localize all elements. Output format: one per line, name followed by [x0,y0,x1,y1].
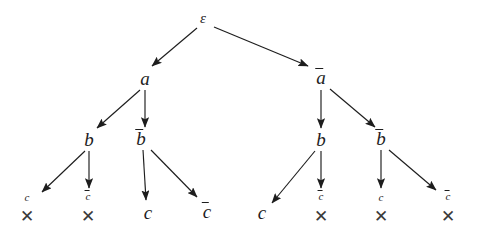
tree-node-b4: b [376,128,386,148]
tree-node-c7: c [379,192,384,203]
tree-node-a: a [140,69,150,88]
tree-edge [151,150,197,197]
tree-edge [42,151,85,192]
tree-node-abar: a [316,67,326,87]
tree-node-root: ε [200,11,206,26]
tree-node-label: c [144,202,152,223]
dead-branch-cross-c7: ✕ [374,208,388,225]
tree-node-label: c [86,190,91,202]
tree-edge [272,151,315,203]
tree-node-b3: b [316,130,326,149]
edges-group [42,27,436,203]
edge-layer [0,0,477,233]
dead-branch-cross-c1: ✕ [20,208,34,225]
tree-node-c3: c [144,203,152,222]
tree-edge [143,150,146,200]
tree-node-label: b [376,128,386,148]
tree-node-label: a [140,68,150,89]
tree-edge [97,90,140,128]
tree-node-label: c [319,190,324,202]
tree-edge [152,28,197,66]
tree-node-b2: b [136,128,146,148]
tree-node-label: ε [200,10,206,26]
tree-node-c8: c [446,190,451,202]
tree-node-c1: c [25,192,30,203]
tree-node-label: c [446,190,451,202]
dead-branch-cross-c6: ✕ [314,208,328,225]
tree-node-label: c [25,191,30,203]
tree-diagram: εaabbbbc✕c✕cccc✕c✕c✕ [0,0,477,233]
tree-node-c2: c [86,190,91,202]
tree-node-label: b [316,129,326,150]
tree-edge [330,89,375,127]
tree-node-label: c [258,202,266,223]
tree-node-b1: b [84,130,94,149]
tree-node-c6: c [319,190,324,202]
tree-node-label: c [203,201,211,221]
tree-node-label: b [84,129,94,150]
dead-branch-cross-c2: ✕ [81,208,95,225]
tree-node-label: c [379,191,384,203]
tree-node-c4: c [203,201,211,221]
tree-edge [214,27,308,66]
tree-edge [389,150,436,190]
dead-branch-cross-c8: ✕ [441,208,455,225]
tree-node-c5: c [258,203,266,222]
tree-node-label: a [316,67,326,87]
tree-node-label: b [136,128,146,148]
